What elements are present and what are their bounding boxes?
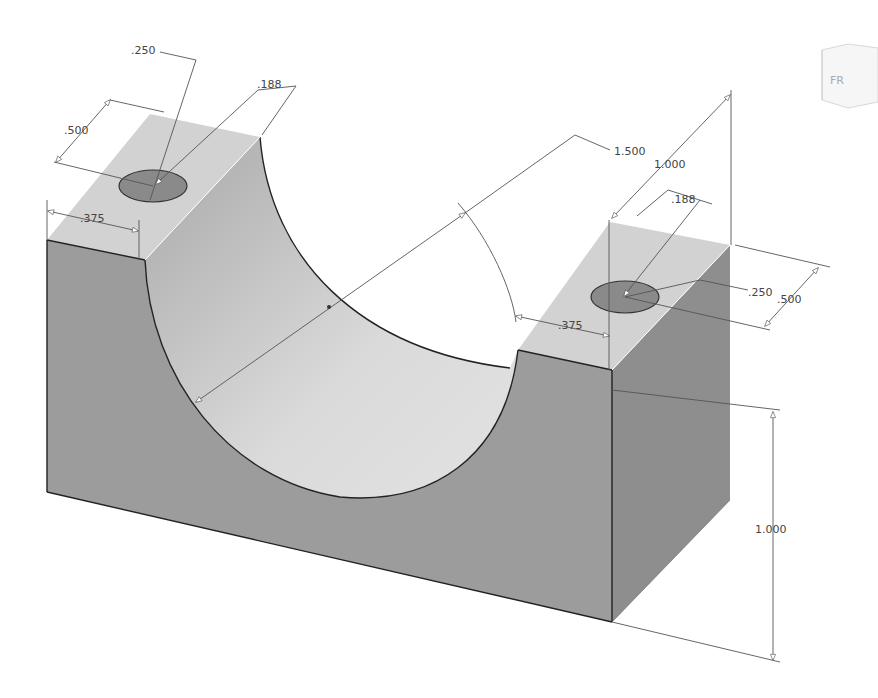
- dim-left-hole-edge[interactable]: .188: [257, 78, 282, 91]
- dim-left-block-length[interactable]: .375: [80, 212, 105, 225]
- dim-height[interactable]: 1.000: [755, 523, 787, 536]
- cad-viewport[interactable]: .250 .188 .500 .375 1.500 1.000 .188 .25…: [0, 0, 878, 698]
- dim-total-depth[interactable]: 1.000: [654, 158, 686, 171]
- dim-bore-dia[interactable]: 1.500: [614, 145, 646, 158]
- dim-right-block-length[interactable]: .375: [558, 319, 583, 332]
- dim-left-hole-dia[interactable]: .250: [131, 44, 156, 57]
- view-cube-label: FR: [830, 74, 844, 87]
- dim-right-width[interactable]: .500: [777, 293, 802, 306]
- view-cube[interactable]: FR: [818, 42, 858, 112]
- dim-right-hole-dia[interactable]: .250: [748, 286, 773, 299]
- dim-left-width[interactable]: .500: [64, 124, 89, 137]
- dim-right-hole-edge[interactable]: .188: [671, 193, 696, 206]
